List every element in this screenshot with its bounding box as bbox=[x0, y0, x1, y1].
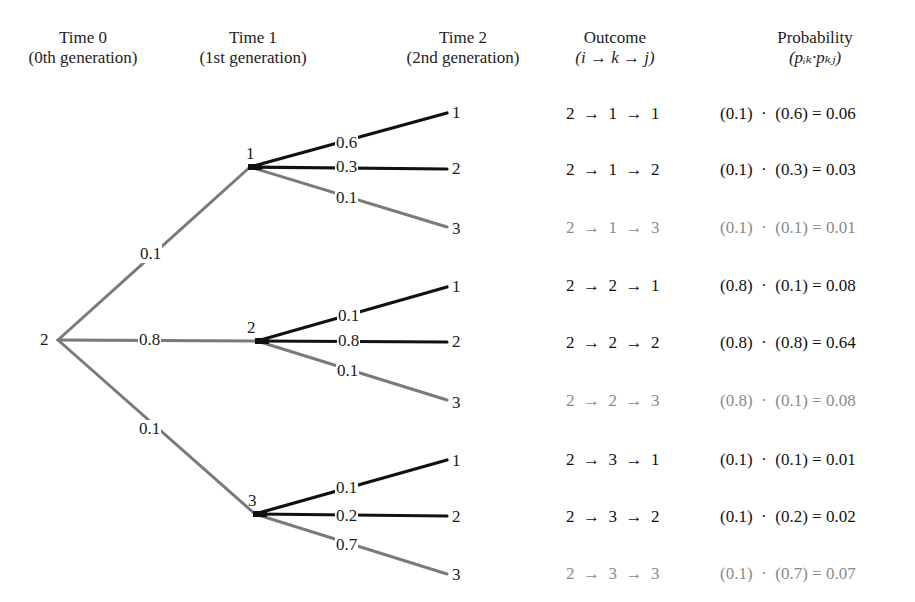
outcome-row-7: 2 → 3 → 1 bbox=[566, 450, 686, 470]
outcome-row-8: 2 → 3 → 2 bbox=[566, 507, 686, 527]
probability-row-5: (0.8) · (0.8) = 0.64 bbox=[720, 333, 910, 353]
edge-label-3-1: 0.1 bbox=[335, 479, 358, 497]
node-marker-1 bbox=[248, 164, 262, 170]
leaf-label-1-1: 1 bbox=[452, 104, 461, 122]
edge-label-2-3: 0.1 bbox=[336, 362, 359, 380]
edge-label-1-1: 0.6 bbox=[335, 134, 358, 152]
leaf-label-3-2: 2 bbox=[452, 508, 461, 526]
leaf-label-2-3: 3 bbox=[452, 394, 461, 412]
leaf-label-3-3: 3 bbox=[452, 566, 461, 584]
node-marker-2 bbox=[255, 338, 269, 344]
edge-label-3-3: 0.7 bbox=[335, 536, 358, 554]
leaf-label-1-2: 2 bbox=[452, 160, 461, 178]
node-label-3: 3 bbox=[248, 492, 257, 510]
node-label-2: 2 bbox=[247, 319, 256, 337]
outcome-row-6: 2 → 2 → 3 bbox=[566, 391, 686, 411]
leaf-label-2-1: 1 bbox=[452, 278, 461, 296]
edge-label-root-3: 0.1 bbox=[138, 420, 161, 438]
leaf-label-1-3: 3 bbox=[452, 220, 461, 238]
probability-row-7: (0.1) · (0.1) = 0.01 bbox=[720, 450, 910, 470]
node-label-1: 1 bbox=[246, 145, 255, 163]
leaf-label-2-2: 2 bbox=[452, 333, 461, 351]
leaf-label-3-1: 1 bbox=[452, 452, 461, 470]
edge-label-2-2: 0.8 bbox=[337, 332, 360, 350]
edge-label-root-2: 0.8 bbox=[138, 331, 161, 349]
probability-row-2: (0.1) · (0.3) = 0.03 bbox=[720, 160, 910, 180]
probability-row-1: (0.1) · (0.6) = 0.06 bbox=[720, 104, 910, 124]
edge-label-root-1: 0.1 bbox=[139, 245, 162, 263]
probability-row-6: (0.8) · (0.1) = 0.08 bbox=[720, 391, 910, 411]
probability-row-3: (0.1) · (0.1) = 0.01 bbox=[720, 218, 910, 238]
outcome-row-9: 2 → 3 → 3 bbox=[566, 564, 686, 584]
node-marker-3 bbox=[253, 511, 267, 517]
edge-label-1-3: 0.1 bbox=[335, 189, 358, 207]
outcome-row-1: 2 → 1 → 1 bbox=[566, 104, 686, 124]
outcome-row-5: 2 → 2 → 2 bbox=[566, 333, 686, 353]
outcome-row-3: 2 → 1 → 3 bbox=[566, 218, 686, 238]
probability-row-9: (0.1) · (0.7) = 0.07 bbox=[720, 564, 910, 584]
edge-label-3-2: 0.2 bbox=[335, 507, 358, 525]
probability-row-8: (0.1) · (0.2) = 0.02 bbox=[720, 507, 910, 527]
root-node-label: 2 bbox=[40, 331, 49, 349]
outcome-row-2: 2 → 1 → 2 bbox=[566, 160, 686, 180]
outcome-row-4: 2 → 2 → 1 bbox=[566, 276, 686, 296]
edge-label-1-2: 0.3 bbox=[335, 158, 358, 176]
probability-row-4: (0.8) · (0.1) = 0.08 bbox=[720, 276, 910, 296]
edge-label-2-1: 0.1 bbox=[337, 307, 360, 325]
